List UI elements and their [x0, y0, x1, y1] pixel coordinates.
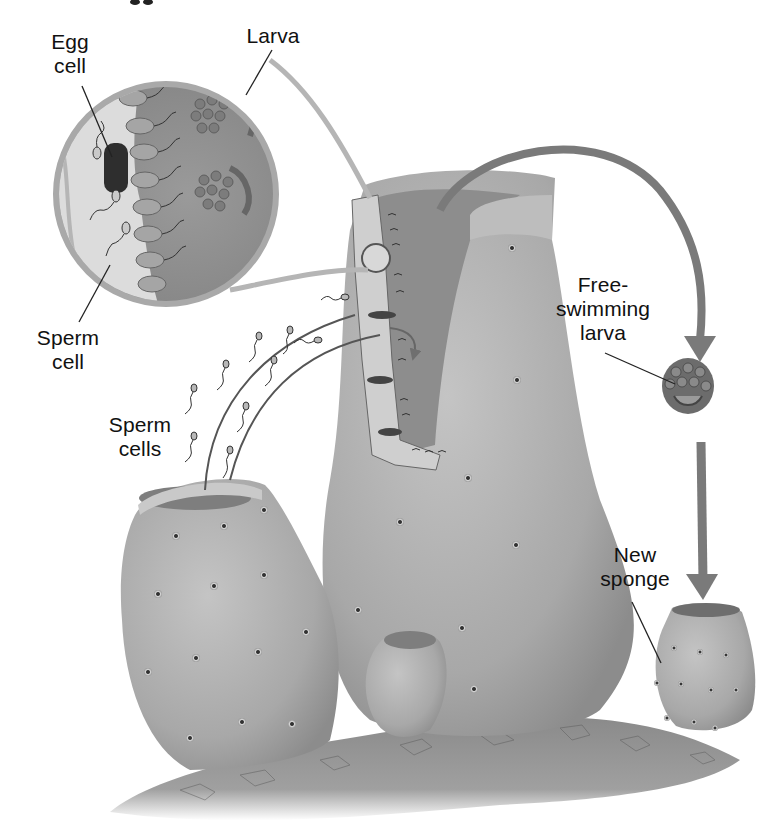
- left-sponge: [121, 479, 339, 770]
- new-sponge-leader: [632, 602, 661, 663]
- sponge-reproduction-diagram: Egg cell Larva Sperm cell Sperm cells Fr…: [0, 0, 775, 832]
- egg-cell-illustration: [104, 143, 128, 193]
- small-sponge: [366, 631, 447, 737]
- larva-label: Larva: [238, 24, 308, 48]
- larva-leader: [246, 50, 272, 95]
- magnified-inset: [40, 59, 276, 310]
- new-sponge: [654, 603, 755, 731]
- sperm-cells-group: [185, 294, 349, 478]
- title-fragment: [130, 0, 153, 5]
- inset-connector-top: [270, 60, 370, 198]
- large-sponge-cutaway: [323, 170, 634, 736]
- free-swimming-larva-label: Free- swimming larva: [548, 273, 658, 345]
- free-swimming-larva-illustration: [662, 358, 714, 414]
- new-sponge-label: New sponge: [585, 543, 685, 591]
- free-swimming-larva-leader: [605, 353, 675, 384]
- sperm-cell-label: Sperm cell: [28, 326, 108, 374]
- settle-arrow: [701, 442, 703, 580]
- sperm-cells-label: Sperm cells: [100, 413, 180, 461]
- egg-cell-label: Egg cell: [40, 30, 100, 78]
- sperm-stream-arrow: [205, 315, 355, 490]
- settle-arrowhead: [686, 574, 718, 600]
